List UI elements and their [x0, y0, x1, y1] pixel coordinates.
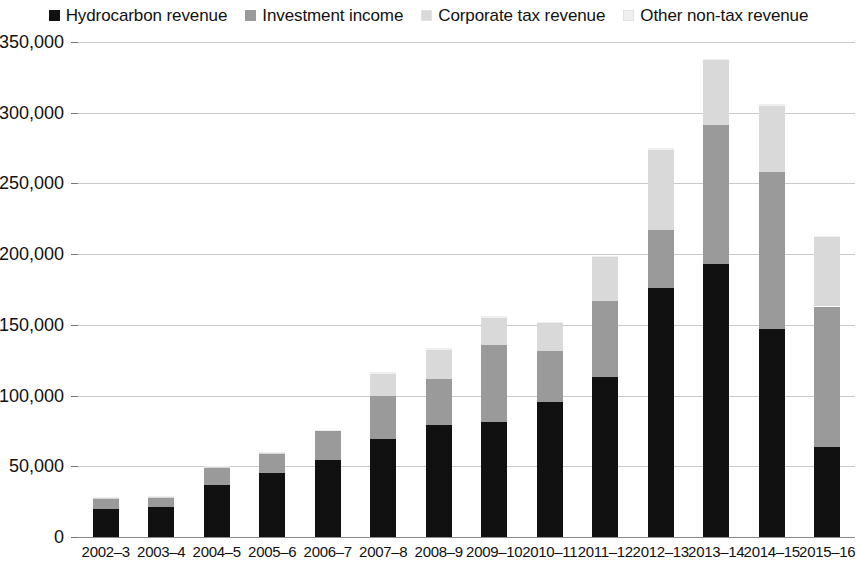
- bar-segment-investment-income[interactable]: [537, 351, 563, 402]
- bar-segment-investment-income[interactable]: [315, 431, 341, 460]
- square-swatch-icon: [623, 10, 634, 21]
- legend-item[interactable]: Hydrocarbon revenue: [49, 7, 228, 24]
- x-axis-tick-label: 2003–4: [137, 543, 185, 560]
- bar-segment-corporate-tax-revenue[interactable]: [148, 497, 174, 498]
- bar-segment-hydrocarbon-revenue[interactable]: [204, 485, 230, 537]
- bar-segment-other-non-tax-revenue[interactable]: [315, 430, 341, 431]
- bar-segment-other-non-tax-revenue[interactable]: [148, 496, 174, 497]
- bar-segment-corporate-tax-revenue[interactable]: [315, 430, 341, 431]
- bar-segment-corporate-tax-revenue[interactable]: [648, 150, 674, 231]
- x-axis-tick-label: 2005–6: [248, 543, 296, 560]
- bar-segment-other-non-tax-revenue[interactable]: [592, 256, 618, 257]
- bar-segment-other-non-tax-revenue[interactable]: [481, 316, 507, 317]
- bar-group[interactable]: [648, 42, 674, 537]
- bar-segment-other-non-tax-revenue[interactable]: [204, 466, 230, 467]
- legend-item[interactable]: Investment income: [245, 7, 403, 24]
- bar-segment-investment-income[interactable]: [703, 125, 729, 264]
- x-axis-tick-label: 2011–12: [578, 543, 633, 560]
- bar-segment-investment-income[interactable]: [259, 454, 285, 473]
- bar-segment-hydrocarbon-revenue[interactable]: [648, 288, 674, 537]
- bar-segment-hydrocarbon-revenue[interactable]: [259, 473, 285, 537]
- bar-group[interactable]: [592, 42, 618, 537]
- bar-group[interactable]: [537, 42, 563, 537]
- axis-baseline: [78, 537, 855, 538]
- bar-segment-corporate-tax-revenue[interactable]: [370, 374, 396, 395]
- bar-segment-corporate-tax-revenue[interactable]: [703, 60, 729, 125]
- y-axis: 050,000100,000150,000200,000250,000300,0…: [0, 0, 72, 566]
- bar-group[interactable]: [426, 42, 452, 537]
- bar-segment-corporate-tax-revenue[interactable]: [759, 106, 785, 172]
- bar-segment-hydrocarbon-revenue[interactable]: [814, 447, 840, 538]
- bar-segment-other-non-tax-revenue[interactable]: [259, 452, 285, 453]
- bar-segment-hydrocarbon-revenue[interactable]: [315, 460, 341, 537]
- bar-group[interactable]: [481, 42, 507, 537]
- bar-group[interactable]: [204, 42, 230, 537]
- bar-segment-hydrocarbon-revenue[interactable]: [481, 422, 507, 537]
- bar-segment-hydrocarbon-revenue[interactable]: [537, 402, 563, 537]
- bar-segment-investment-income[interactable]: [148, 497, 174, 506]
- bar-group[interactable]: [703, 42, 729, 537]
- x-axis-tick-label: 2010–11: [522, 543, 577, 560]
- y-axis-tick-mark: [71, 113, 78, 114]
- bar-segment-investment-income[interactable]: [426, 379, 452, 425]
- bar-group[interactable]: [259, 42, 285, 537]
- y-axis-tick-mark: [71, 396, 78, 397]
- bar-group[interactable]: [370, 42, 396, 537]
- bar-segment-hydrocarbon-revenue[interactable]: [592, 377, 618, 537]
- bar-segment-investment-income[interactable]: [370, 396, 396, 440]
- bar-segment-hydrocarbon-revenue[interactable]: [759, 329, 785, 537]
- bar-segment-investment-income[interactable]: [204, 468, 230, 485]
- y-axis-tick-mark: [71, 42, 78, 43]
- bar-segment-corporate-tax-revenue[interactable]: [93, 498, 119, 499]
- bar-segment-other-non-tax-revenue[interactable]: [703, 59, 729, 60]
- bar-segment-corporate-tax-revenue[interactable]: [814, 237, 840, 306]
- gridline: [78, 466, 855, 467]
- bar-segment-investment-income[interactable]: [93, 499, 119, 510]
- bar-segment-corporate-tax-revenue[interactable]: [537, 323, 563, 351]
- chart-legend: Hydrocarbon revenueInvestment incomeCorp…: [0, 0, 857, 30]
- bar-segment-other-non-tax-revenue[interactable]: [648, 148, 674, 149]
- bar-segment-investment-income[interactable]: [592, 301, 618, 377]
- bar-segment-corporate-tax-revenue[interactable]: [259, 453, 285, 454]
- x-axis-tick-label: 2004–5: [193, 543, 241, 560]
- bar-group[interactable]: [814, 42, 840, 537]
- legend-item[interactable]: Other non-tax revenue: [623, 7, 808, 24]
- bar-group[interactable]: [148, 42, 174, 537]
- bar-segment-other-non-tax-revenue[interactable]: [370, 372, 396, 375]
- x-axis-tick-label: 2006–7: [304, 543, 352, 560]
- bar-segment-other-non-tax-revenue[interactable]: [537, 322, 563, 323]
- bar-group[interactable]: [759, 42, 785, 537]
- bar-segment-corporate-tax-revenue[interactable]: [481, 318, 507, 345]
- x-axis-tick-label: 2015–16: [799, 543, 855, 560]
- gridline: [78, 254, 855, 255]
- bar-segment-hydrocarbon-revenue[interactable]: [703, 264, 729, 537]
- bar-segment-corporate-tax-revenue[interactable]: [592, 257, 618, 301]
- x-axis-tick-label: 2008–9: [415, 543, 463, 560]
- bar-group[interactable]: [315, 42, 341, 537]
- bar-segment-investment-income[interactable]: [814, 307, 840, 447]
- bar-segment-hydrocarbon-revenue[interactable]: [148, 507, 174, 537]
- bar-segment-other-non-tax-revenue[interactable]: [814, 236, 840, 237]
- square-swatch-icon: [421, 10, 432, 21]
- x-axis-tick-label: 2007–8: [359, 543, 407, 560]
- gridline: [78, 113, 855, 114]
- x-axis: 2002–32003–42004–52005–62006–72007–82008…: [0, 543, 857, 566]
- y-axis-tick-label: 200,000: [0, 244, 64, 265]
- bar-group[interactable]: [93, 42, 119, 537]
- x-axis-tick-label: 2002–3: [82, 543, 130, 560]
- gridline: [78, 325, 855, 326]
- bar-segment-investment-income[interactable]: [648, 230, 674, 288]
- x-axis-tick-label: 2012–13: [633, 543, 689, 560]
- x-axis-tick-label: 2014–15: [744, 543, 800, 560]
- bar-segment-corporate-tax-revenue[interactable]: [204, 467, 230, 468]
- bar-segment-hydrocarbon-revenue[interactable]: [370, 439, 396, 537]
- bar-segment-investment-income[interactable]: [759, 172, 785, 329]
- bar-segment-other-non-tax-revenue[interactable]: [426, 348, 452, 351]
- bar-segment-investment-income[interactable]: [481, 345, 507, 422]
- bar-segment-other-non-tax-revenue[interactable]: [93, 497, 119, 498]
- legend-item[interactable]: Corporate tax revenue: [421, 7, 605, 24]
- bar-segment-other-non-tax-revenue[interactable]: [759, 104, 785, 105]
- bar-segment-corporate-tax-revenue[interactable]: [426, 350, 452, 379]
- bar-segment-hydrocarbon-revenue[interactable]: [93, 509, 119, 537]
- bar-segment-hydrocarbon-revenue[interactable]: [426, 425, 452, 537]
